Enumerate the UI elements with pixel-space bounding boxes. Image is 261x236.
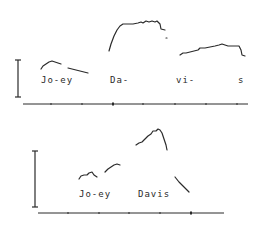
panel-bottom: Jo-ey Davis: [0, 118, 261, 236]
syllable-label-s: s: [238, 75, 244, 85]
syllable-label-vi: vi-: [176, 75, 195, 85]
pitch-contours: [79, 129, 189, 192]
top-plot: [0, 0, 261, 118]
time-axis: [38, 212, 224, 215]
bottom-plot: [0, 118, 261, 236]
pitch-contours: [41, 21, 245, 73]
panel-top: Jo-ey Da- vi- s: [0, 0, 261, 118]
syllable-label-jo-ey: Jo-ey: [41, 75, 73, 85]
scale-bar: [15, 60, 21, 97]
syllable-label-jo-ey: Jo-ey: [79, 189, 111, 199]
syllable-label-davis: Davis: [138, 189, 170, 199]
scale-bar: [32, 151, 38, 207]
time-axis: [23, 103, 248, 106]
syllable-label-da: Da-: [110, 75, 129, 85]
